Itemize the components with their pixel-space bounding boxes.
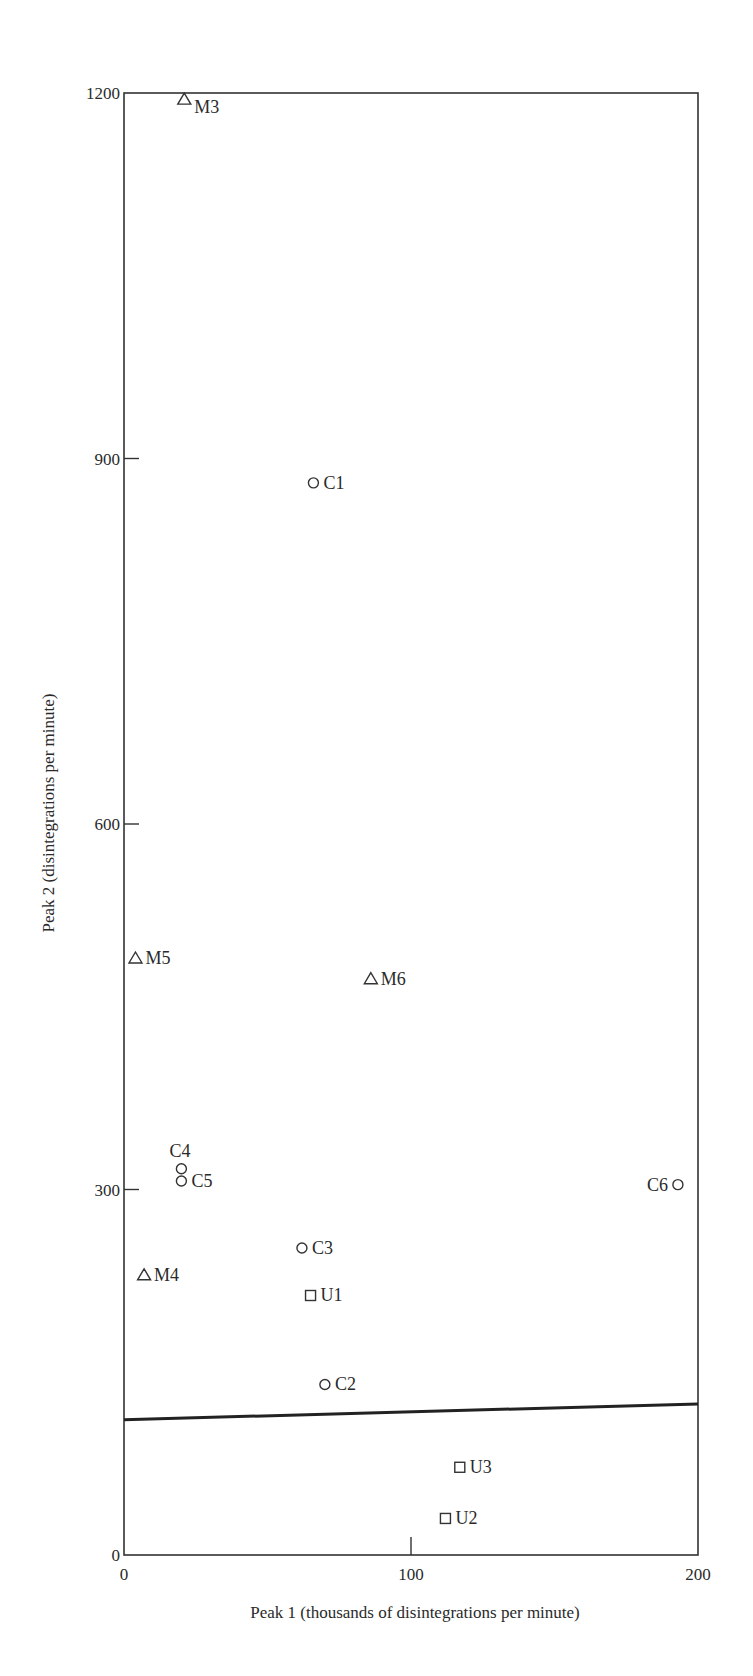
point-label: C4 (169, 1141, 190, 1161)
triangle-marker-icon (129, 952, 142, 963)
data-points: M3M5M6M4C1C4C5C6C3C2U1U3U2 (129, 93, 683, 1528)
point-label: M4 (154, 1265, 179, 1285)
square-marker-icon (455, 1462, 465, 1472)
point-label: M3 (194, 97, 219, 117)
point-label: C3 (312, 1238, 333, 1258)
circle-marker-icon (308, 478, 318, 488)
point-label: C5 (191, 1171, 212, 1191)
y-tick-label: 600 (95, 815, 121, 834)
point-label: M6 (381, 969, 406, 989)
data-point-m4: M4 (138, 1265, 180, 1285)
y-axis-title: Peak 2 (disintegrations per minute) (39, 694, 58, 933)
circle-marker-icon (176, 1164, 186, 1174)
x-tick-label: 200 (685, 1565, 711, 1584)
data-point-m6: M6 (364, 969, 406, 989)
plot-frame (124, 93, 698, 1555)
point-label: U2 (455, 1508, 477, 1528)
data-point-u3: U3 (455, 1457, 492, 1477)
circle-marker-icon (320, 1379, 330, 1389)
triangle-marker-icon (178, 93, 191, 104)
triangle-marker-icon (364, 973, 377, 984)
square-marker-icon (440, 1513, 450, 1523)
data-point-m5: M5 (129, 948, 171, 968)
y-tick-label: 300 (95, 1181, 121, 1200)
point-label: C2 (335, 1374, 356, 1394)
data-point-u2: U2 (440, 1508, 477, 1528)
separator-lines (124, 1404, 698, 1420)
separator-line (124, 1404, 698, 1420)
y-tick-label: 900 (95, 450, 121, 469)
triangle-marker-icon (138, 1269, 151, 1280)
point-label: C6 (647, 1175, 668, 1195)
data-point-c1: C1 (308, 473, 344, 493)
y-tick-label: 0 (112, 1546, 121, 1565)
point-label: U1 (321, 1285, 343, 1305)
data-point-u1: U1 (306, 1285, 343, 1305)
plot-border (124, 93, 698, 1555)
data-point-m3: M3 (178, 93, 220, 117)
circle-marker-icon (297, 1243, 307, 1253)
y-tick-label: 1200 (86, 84, 120, 103)
square-marker-icon (306, 1290, 316, 1300)
x-axis-ticks: 0100200 (120, 1537, 711, 1584)
data-point-c4: C4 (169, 1141, 190, 1174)
data-point-c6: C6 (647, 1175, 683, 1195)
data-point-c2: C2 (320, 1374, 356, 1394)
circle-marker-icon (176, 1176, 186, 1186)
x-axis-title: Peak 1 (thousands of disintegrations per… (250, 1603, 580, 1622)
x-tick-label: 100 (398, 1565, 424, 1584)
circle-marker-icon (673, 1180, 683, 1190)
x-tick-label: 0 (120, 1565, 129, 1584)
scatter-chart: 03006009001200 0100200 M3M5M6M4C1C4C5C6C… (0, 0, 753, 1676)
point-label: C1 (323, 473, 344, 493)
point-label: M5 (145, 948, 170, 968)
data-point-c3: C3 (297, 1238, 333, 1258)
y-axis-ticks: 03006009001200 (86, 84, 139, 1565)
point-label: U3 (470, 1457, 492, 1477)
